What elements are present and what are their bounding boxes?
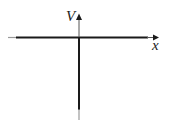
- vertical-axis-label: V: [66, 9, 75, 24]
- arrow-up-icon: [76, 14, 82, 21]
- horizontal-axis-label: x: [152, 38, 159, 53]
- axes-canvas: [0, 0, 169, 123]
- coordinate-axes-diagram: V x: [0, 0, 169, 123]
